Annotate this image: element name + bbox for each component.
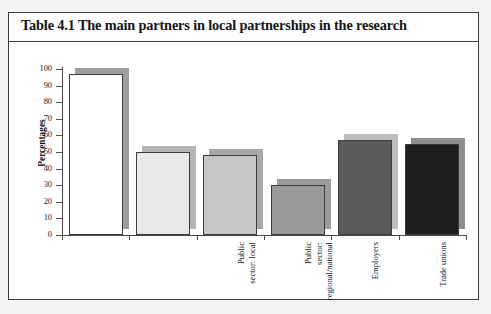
y-axis-tick-label: 30 — [22, 181, 52, 189]
x-axis-category-label: Trade unions — [438, 242, 449, 314]
bar-1[interactable] — [69, 66, 123, 235]
bar-4[interactable] — [271, 177, 325, 235]
y-axis-tick-label: 100 — [22, 65, 52, 73]
bar-series — [62, 42, 466, 236]
bar-body[interactable] — [271, 185, 325, 235]
bar-body[interactable] — [338, 140, 392, 235]
bar-body[interactable] — [203, 155, 257, 235]
screenshot-canvas: Table 4.1 The main partners in local par… — [0, 0, 491, 314]
y-axis-tick-label: 0 — [22, 231, 52, 239]
y-axis-tick-label: 80 — [22, 98, 52, 106]
figure-frame: Table 4.1 The main partners in local par… — [8, 12, 479, 300]
x-axis-category-label: Employers — [370, 242, 381, 314]
x-axis-category-label: Public sector: local — [236, 242, 257, 314]
bar-3[interactable] — [203, 147, 257, 235]
x-axis-tick — [129, 235, 130, 240]
bar-5[interactable] — [338, 132, 392, 235]
bar-chart-plot: Percentages 1009080706050403020100 Publi… — [9, 42, 480, 300]
bar-6[interactable] — [405, 136, 459, 235]
x-axis-tick — [466, 235, 467, 240]
figure-title-bar: Table 4.1 The main partners in local par… — [9, 13, 478, 42]
x-axis-tick — [264, 235, 265, 240]
bar-body[interactable] — [69, 74, 123, 235]
y-axis-tick-label: 10 — [22, 214, 52, 222]
x-axis-tick — [331, 235, 332, 240]
y-axis-tick-label: 40 — [22, 165, 52, 173]
y-axis-tick-label: 20 — [22, 198, 52, 206]
page-title: Table 4.1 The main partners in local par… — [21, 17, 407, 34]
y-axis-label: Percentages — [37, 98, 47, 188]
x-axis-category-label: Public sector: regional/national — [303, 242, 335, 314]
bar-2[interactable] — [136, 144, 190, 235]
y-axis-tick-label: 90 — [22, 82, 52, 90]
y-axis-tick-label: 70 — [22, 115, 52, 123]
x-axis-tick — [197, 235, 198, 240]
bar-body[interactable] — [405, 144, 459, 235]
x-axis-tick — [399, 235, 400, 240]
y-axis-tick-label: 50 — [22, 148, 52, 156]
bar-body[interactable] — [136, 152, 190, 235]
x-axis-tick — [62, 235, 63, 240]
y-axis-tick-label: 60 — [22, 131, 52, 139]
